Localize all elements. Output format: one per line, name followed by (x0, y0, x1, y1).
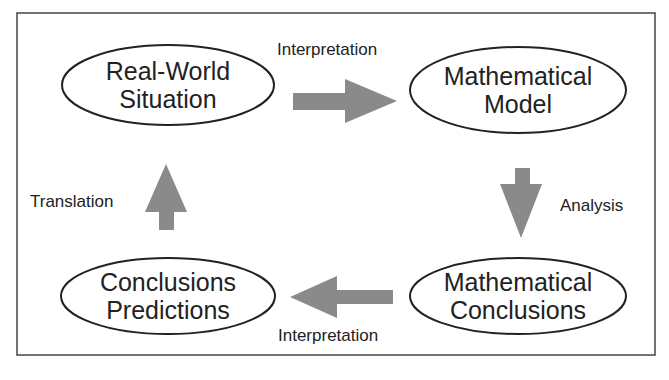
node-real-world-line1: Real-World (106, 57, 231, 85)
edge-label-translation: Translation (30, 192, 113, 211)
node-real-world-line2: Situation (119, 85, 216, 113)
node-math-model: Mathematical Model (410, 47, 626, 133)
node-real-world: Real-World Situation (62, 45, 274, 125)
edge-label-analysis: Analysis (560, 196, 623, 215)
node-math-model-line1: Mathematical (444, 62, 593, 90)
node-conclusions-predictions-line1: Conclusions (100, 268, 236, 296)
node-math-model-line2: Model (484, 90, 552, 118)
node-math-conclusions-line1: Mathematical (444, 268, 593, 296)
node-math-conclusions: Mathematical Conclusions (410, 258, 626, 334)
modeling-cycle-diagram: Real-World Situation Mathematical Model … (0, 0, 669, 380)
node-conclusions-predictions-line2: Predictions (106, 296, 230, 324)
edge-label-interpretation-top: Interpretation (277, 40, 377, 59)
edge-label-interpretation-bottom: Interpretation (278, 326, 378, 345)
node-math-conclusions-line2: Conclusions (450, 296, 586, 324)
node-conclusions-predictions: Conclusions Predictions (61, 258, 275, 334)
